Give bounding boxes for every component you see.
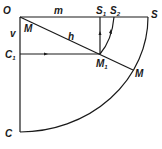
label-m: m <box>54 5 63 16</box>
label-M-near-O: M <box>24 23 33 34</box>
arrow-C1-M1 <box>44 53 48 56</box>
arc-M1-S2 <box>100 17 114 54</box>
label-S: S <box>151 9 158 20</box>
geometry-diagram: O m S1 S2 S M v h C1 M1 M C <box>0 0 162 149</box>
label-O: O <box>3 5 11 16</box>
line-O-M <box>20 17 133 70</box>
label-C1: C1 <box>5 49 16 61</box>
label-h: h <box>68 31 74 42</box>
arrow-S1-M1 <box>99 31 102 35</box>
label-S2: S2 <box>110 5 121 17</box>
label-M: M <box>135 68 144 79</box>
label-S1: S1 <box>96 5 107 17</box>
arc-S-C <box>20 17 148 132</box>
label-M1: M1 <box>96 58 108 70</box>
label-C: C <box>5 128 13 139</box>
label-v: v <box>10 28 17 39</box>
